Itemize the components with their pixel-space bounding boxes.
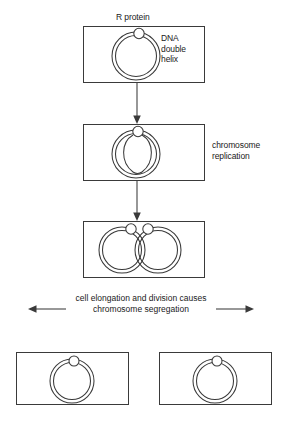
stage-3-cell-body — [83, 221, 205, 278]
stage-4-left-cell-body — [16, 352, 129, 405]
segregation-arrow-right — [216, 305, 254, 313]
dna-double-helix-label: DNA double helix — [161, 33, 186, 65]
stage-1-cell-body — [83, 26, 205, 83]
segregation-arrow-left — [28, 305, 66, 313]
chromosome-replication-label: chromosome replication — [212, 140, 260, 161]
segregation-caption: cell elongation and division causes chro… — [71, 293, 211, 314]
arrow-stage1-to-stage2 — [133, 83, 141, 124]
r-protein-label: R protein — [116, 12, 150, 23]
diagram-canvas: R protein DNA double helix chromosome re… — [0, 0, 282, 426]
stage-2-cell-body — [83, 124, 205, 181]
stage-4-right-cell-body — [159, 352, 272, 405]
arrow-stage2-to-stage3 — [133, 181, 141, 221]
